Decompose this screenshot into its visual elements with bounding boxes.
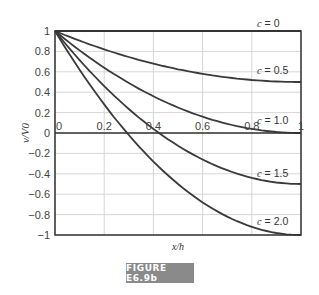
y-tick-labels: 10.80.60.40.20−0.2−0.4−0.6−0.8−1 [28,25,50,241]
svg-text:0.8: 0.8 [35,45,50,57]
svg-text:0: 0 [56,120,62,132]
svg-text:1: 1 [298,120,304,132]
svg-text:0: 0 [44,127,50,139]
svg-text:c = 0: c = 0 [257,17,280,29]
svg-text:0.6: 0.6 [35,66,50,78]
svg-text:c = 0.5: c = 0.5 [257,64,288,76]
svg-text:−1: −1 [37,229,50,241]
svg-text:−0.8: −0.8 [28,209,50,221]
svg-text:0.2: 0.2 [35,107,50,119]
curve-labels: c = 0c = 0.5c = 1.0c = 1.5c = 2.0 [257,17,288,227]
figure-label-badge: FIGURE E6.9b [126,263,194,283]
svg-text:0.6: 0.6 [195,120,210,132]
svg-text:c = 2.0: c = 2.0 [257,215,288,227]
svg-text:−0.4: −0.4 [28,168,50,180]
svg-text:−0.2: −0.2 [28,147,50,159]
x-axis-label: x/h [171,241,184,252]
svg-text:0.2: 0.2 [97,120,112,132]
svg-text:c = 1.0: c = 1.0 [257,114,288,126]
y-axis-label: v/V0 [19,122,31,143]
line-chart: 10.80.60.40.20−0.2−0.4−0.6−0.8−1 00.20.4… [0,0,319,260]
svg-text:0.4: 0.4 [35,86,50,98]
svg-text:c = 1.5: c = 1.5 [257,167,288,179]
svg-text:0.4: 0.4 [146,120,161,132]
svg-text:−0.6: −0.6 [28,188,50,200]
svg-text:1: 1 [44,25,50,37]
